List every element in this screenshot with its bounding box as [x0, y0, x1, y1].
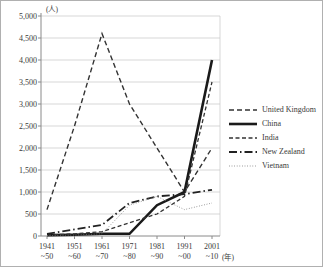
legend-line-sample: [228, 120, 258, 128]
y-tick-label: 3,000: [3, 100, 37, 109]
x-tick-label: 1971~80: [115, 242, 145, 261]
legend-item-china: China: [228, 119, 316, 128]
legend-item-india: India: [228, 133, 316, 142]
y-axis-unit-label: (人): [46, 3, 58, 14]
legend-line-sample: [228, 134, 258, 142]
y-tick-label: 2,500: [3, 122, 37, 131]
y-tick-label: 1,000: [3, 188, 37, 197]
legend-label: Vietnam: [262, 161, 289, 170]
legend-line-sample: [228, 162, 258, 170]
legend-item-united-kingdom: United Kingdom: [228, 105, 316, 114]
legend-label: United Kingdom: [262, 105, 316, 114]
y-tick-label: 5,000: [3, 12, 37, 21]
y-tick-label: 500: [3, 210, 37, 219]
x-tick-label: 1951~60: [60, 242, 90, 261]
y-tick-label: 4,500: [3, 34, 37, 43]
legend-label: India: [262, 133, 278, 142]
legend-item-new-zealand: New Zealand: [228, 147, 316, 156]
y-tick-label: 4,000: [3, 56, 37, 65]
legend: United KingdomChinaIndiaNew ZealandVietn…: [228, 105, 316, 170]
y-tick-label: 0: [3, 232, 37, 241]
legend-item-vietnam: Vietnam: [228, 161, 316, 170]
legend-line-sample: [228, 148, 258, 156]
y-tick-label: 3,500: [3, 78, 37, 87]
legend-line-sample: [228, 106, 258, 114]
series-line-china: [47, 60, 212, 235]
line-chart-figure: 05001,0001,5002,0002,5003,0003,5004,0004…: [0, 0, 323, 267]
x-tick-label: 1961~70: [87, 242, 117, 261]
y-tick-label: 2,000: [3, 144, 37, 153]
y-tick-label: 1,500: [3, 166, 37, 175]
x-axis-unit-label: (年): [222, 251, 234, 262]
series-line-new-zealand: [47, 190, 212, 234]
x-tick-label: 1941~50: [32, 242, 62, 261]
x-tick-label: 1991~00: [170, 242, 200, 261]
legend-label: New Zealand: [262, 147, 305, 156]
legend-label: China: [262, 119, 281, 128]
x-tick-label: 1981~90: [142, 242, 172, 261]
series-line-vietnam: [47, 196, 212, 235]
